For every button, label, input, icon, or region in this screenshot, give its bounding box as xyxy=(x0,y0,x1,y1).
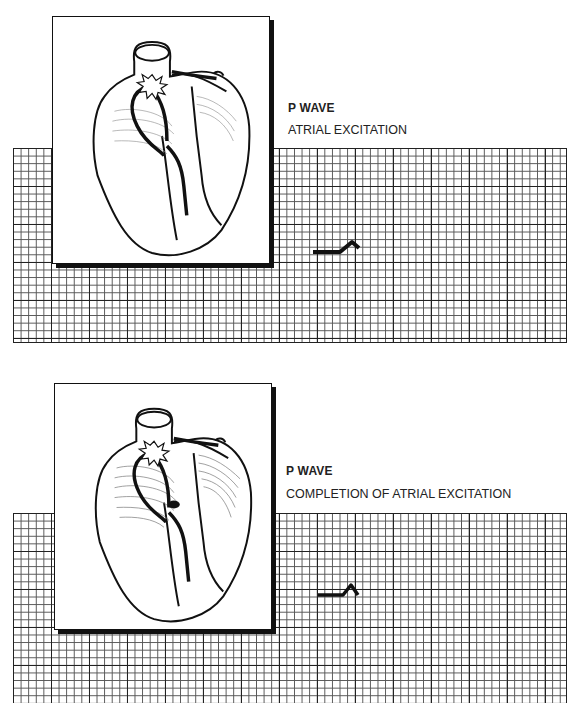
panel-caption: COMPLETION OF ATRIAL EXCITATION xyxy=(286,487,511,501)
panel-title: P WAVE xyxy=(288,101,335,115)
av-node-icon xyxy=(168,501,180,509)
heart-diagram-icon xyxy=(55,384,271,629)
p-wave-trace-icon xyxy=(310,230,370,260)
heart-illustration-box xyxy=(52,16,270,264)
panel-completion-of-atrial-excitation: P WAVE COMPLETION OF ATRIAL EXCITATION xyxy=(0,370,573,696)
panel-caption: ATRIAL EXCITATION xyxy=(288,123,407,137)
panel-atrial-excitation: P WAVE ATRIAL EXCITATION xyxy=(0,0,573,350)
panel-title: P WAVE xyxy=(286,464,333,478)
heart-diagram-icon xyxy=(53,17,269,263)
heart-illustration-box xyxy=(54,383,272,630)
p-wave-trace-icon xyxy=(315,575,375,605)
